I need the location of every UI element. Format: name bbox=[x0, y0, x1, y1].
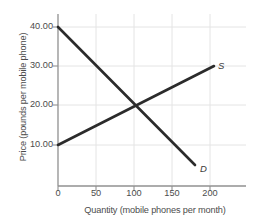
supply-curve-label: S bbox=[218, 60, 224, 71]
horizontal-gridlines bbox=[58, 27, 246, 145]
x-axis-title: Quantity (mobile phones per month) bbox=[57, 205, 253, 215]
y-axis-title: Price (pounds per mobile phone) bbox=[18, 12, 28, 182]
xtick-label-0: 0 bbox=[38, 188, 78, 198]
xtick-label-150: 150 bbox=[152, 188, 192, 198]
demand-curve-label: D bbox=[200, 163, 207, 174]
demand-curve bbox=[58, 27, 195, 165]
xtick-label-100: 100 bbox=[114, 188, 154, 198]
xtick-label-200: 200 bbox=[190, 188, 230, 198]
y-axis-ticks bbox=[53, 27, 58, 145]
xtick-label-50: 50 bbox=[76, 188, 116, 198]
supply-demand-chart: 40.00 30.00 20.00 10.00 0 50 100 150 200… bbox=[0, 0, 253, 222]
vertical-gridlines bbox=[96, 14, 210, 185]
